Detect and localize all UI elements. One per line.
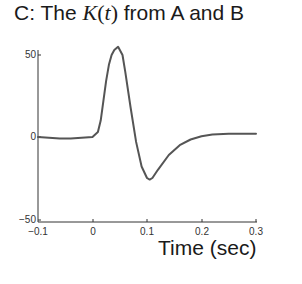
xtick-0: 0 — [90, 226, 96, 237]
plot-area: 50 0 −50 −0.1 0 0.1 0.2 0.3 — [0, 0, 302, 284]
k-t-line — [38, 47, 256, 180]
ytick-50: 50 — [25, 49, 37, 60]
x-axis-label: Time (sec) — [158, 236, 256, 260]
ytick-neg50: −50 — [19, 214, 36, 225]
xtick-0.1: 0.1 — [140, 226, 154, 237]
xtick-neg0.1: −0.1 — [28, 226, 48, 237]
ytick-0: 0 — [30, 131, 36, 142]
